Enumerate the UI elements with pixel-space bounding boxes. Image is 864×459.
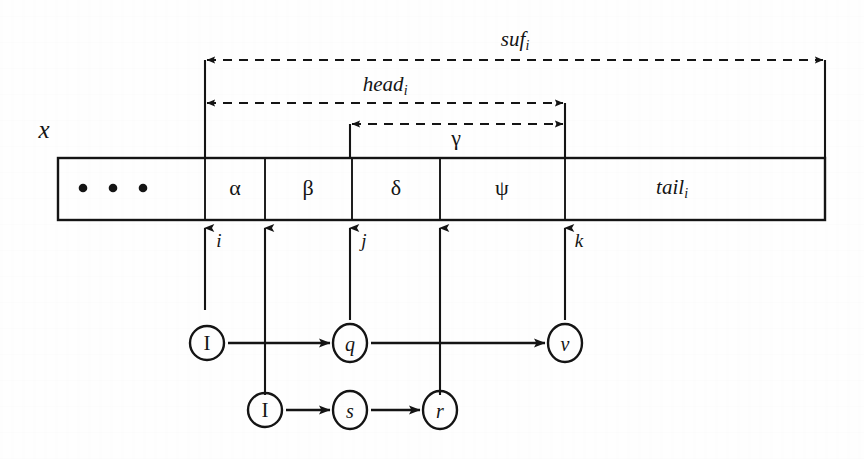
cell-label-tail-subscript: i xyxy=(684,186,688,201)
measure-arrows xyxy=(207,60,823,124)
ellipsis-dot xyxy=(139,184,148,193)
suf-measure-label-subscript: i xyxy=(526,38,530,53)
position-label-i: i xyxy=(216,231,221,250)
ellipsis-dot xyxy=(109,184,118,193)
cell-label-delta: δ xyxy=(391,177,401,199)
head-measure-label: headi xyxy=(363,74,408,95)
state-label-s: s xyxy=(346,401,354,421)
string-label-x: x xyxy=(38,117,49,142)
state-label-r: r xyxy=(436,401,444,421)
cell-label-beta: β xyxy=(302,177,313,199)
state-label-q: q xyxy=(345,334,355,354)
ellipsis-dot xyxy=(79,184,88,193)
head-measure-label-text: head xyxy=(363,72,404,96)
position-marker-arrows xyxy=(205,228,565,395)
automaton-row-1 xyxy=(190,324,582,362)
cell-label-tail-text: tail xyxy=(656,175,684,199)
cell-label-psi: ψ xyxy=(495,177,509,199)
state-label-I-row2: I xyxy=(262,400,269,421)
suf-measure-label: sufi xyxy=(501,29,529,50)
string-box-cell-dividers xyxy=(205,158,565,220)
string-box xyxy=(58,158,825,220)
head-measure-label-subscript: i xyxy=(404,83,408,98)
ellipsis-dots xyxy=(79,184,148,193)
position-label-j: j xyxy=(361,231,366,250)
measure-bracket-lines xyxy=(205,60,825,159)
cell-label-alpha: α xyxy=(229,177,241,199)
state-label-I-row1: I xyxy=(204,333,211,354)
suf-measure-label-text: suf xyxy=(501,27,526,51)
cell-label-tail: taili xyxy=(656,177,688,198)
diagram-vector-layer xyxy=(0,0,864,459)
figure-canvas: x sufi headi γ α β δ ψ taili i j k I q v… xyxy=(0,0,864,459)
string-box-outline xyxy=(58,158,825,220)
state-label-v: v xyxy=(561,334,570,354)
position-label-k: k xyxy=(575,231,583,250)
gamma-measure-label: γ xyxy=(451,127,461,149)
